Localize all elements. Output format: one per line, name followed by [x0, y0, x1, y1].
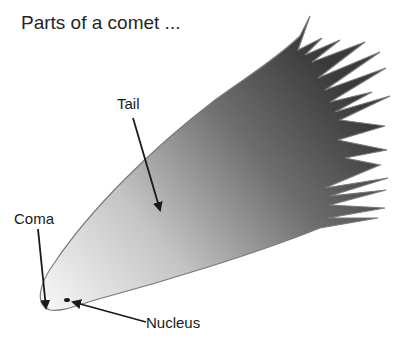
tail-label: Tail [117, 95, 140, 112]
nucleus-dot [64, 298, 70, 302]
comet-diagram: Parts of a comet ... Tail Coma Nucleus [0, 0, 399, 347]
nucleus-label: Nucleus [146, 314, 200, 331]
coma-label: Coma [14, 210, 54, 227]
diagram-title: Parts of a comet ... [21, 12, 180, 34]
comet-illustration [0, 0, 399, 347]
comet-tail-shape [40, 16, 390, 310]
nucleus-arrow [73, 302, 146, 322]
